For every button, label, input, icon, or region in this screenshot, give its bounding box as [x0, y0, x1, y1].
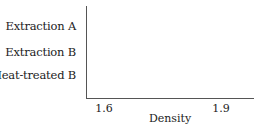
x-axis-line	[86, 98, 254, 99]
x-tick-label-1-9: 1.9	[212, 102, 230, 115]
category-label-extraction-a: Extraction A	[6, 19, 77, 33]
x-axis-title: Density	[149, 112, 191, 125]
x-tick-label-1-6: 1.6	[95, 102, 113, 115]
dot-plot-chart: Extraction A Extraction B Heat-treated B…	[0, 0, 272, 130]
category-label-heat-treated-b: Heat-treated B	[0, 68, 76, 82]
y-axis-line	[86, 6, 87, 99]
category-label-extraction-b: Extraction B	[5, 45, 76, 59]
